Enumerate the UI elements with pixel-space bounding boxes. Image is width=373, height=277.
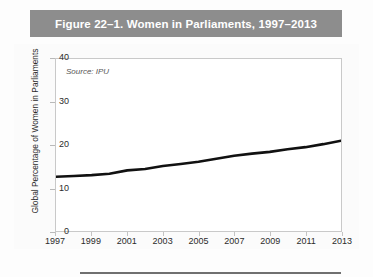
x-tick-mark <box>234 232 235 236</box>
y-tick-mark <box>50 58 55 59</box>
x-tick-label: 2003 <box>143 236 183 246</box>
chart-panel: Global Percentage of Women in Parliament… <box>14 44 359 249</box>
y-tick-label: 30 <box>43 96 69 106</box>
x-tick-mark <box>342 232 343 236</box>
x-tick-label: 2005 <box>179 236 219 246</box>
x-tick-mark <box>306 232 307 236</box>
x-tick-mark <box>55 232 56 236</box>
x-tick-mark <box>127 232 128 236</box>
y-tick-mark <box>50 189 55 190</box>
figure-title: Figure 22–1. Women in Parliaments, 1997–… <box>55 18 317 30</box>
x-tick-mark <box>91 232 92 236</box>
data-line-women-in-parliaments <box>56 141 341 177</box>
y-axis-title: Global Percentage of Women in Parliament… <box>30 41 40 221</box>
x-tick-mark <box>270 232 271 236</box>
x-tick-mark <box>199 232 200 236</box>
y-tick-mark <box>50 145 55 146</box>
x-tick-label: 1999 <box>71 236 111 246</box>
figure-title-band: Figure 22–1. Women in Parliaments, 1997–… <box>30 10 342 37</box>
figure-container: Figure 22–1. Women in Parliaments, 1997–… <box>0 0 373 277</box>
x-tick-label: 2013 <box>322 236 362 246</box>
y-tick-label: 20 <box>43 139 69 149</box>
plot-area: Source: IPU <box>55 58 342 232</box>
x-tick-label: 2001 <box>107 236 147 246</box>
y-tick-label: 10 <box>43 183 69 193</box>
line-series-svg <box>56 59 341 231</box>
y-tick-label: 0 <box>43 226 69 236</box>
y-tick-label: 40 <box>43 52 69 62</box>
x-tick-mark <box>163 232 164 236</box>
x-tick-label: 2011 <box>286 236 326 246</box>
x-tick-label: 2009 <box>250 236 290 246</box>
footer-divider <box>80 272 341 274</box>
y-tick-mark <box>50 102 55 103</box>
x-tick-label: 2007 <box>214 236 254 246</box>
x-tick-label: 1997 <box>35 236 75 246</box>
